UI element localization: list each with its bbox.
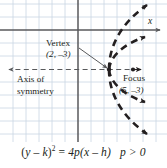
equation-condition: p > 0 xyxy=(120,146,146,159)
axis-of-symmetry-label-line1: Axis of xyxy=(17,75,44,84)
x-axis-label: x xyxy=(148,17,152,27)
parabola-equation: (y – k)2 = 4p(x – h)p > 0 xyxy=(0,144,167,159)
equation-lhs-minus: – xyxy=(31,146,43,159)
parabola-outer-curve xyxy=(109,5,147,70)
vertex-leader-line xyxy=(79,48,107,68)
parabola-plot xyxy=(0,0,167,142)
focus-label: Focus xyxy=(123,74,145,83)
vertex-point xyxy=(107,67,111,71)
grid-lines xyxy=(0,0,167,142)
focus-coordinate: (5, –3) xyxy=(119,86,144,95)
vertex-coordinate: (2, –3) xyxy=(46,50,71,59)
vertex-label: Vertex xyxy=(46,39,70,48)
axis-of-symmetry-label-line2: symmetry xyxy=(17,87,54,96)
parabola-figure: x Vertex (2, –3) Axis of symmetry Focus … xyxy=(0,0,167,168)
equation-equals: = xyxy=(56,146,69,159)
equation-rhs: 4p(x – h) xyxy=(68,146,111,159)
